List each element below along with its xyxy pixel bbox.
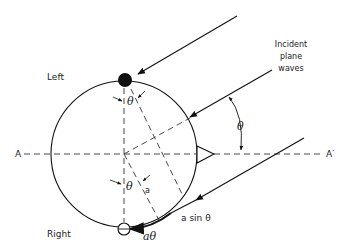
label-right: Right [47,229,71,239]
arc-a-theta [130,213,171,229]
label-axis-A-prime: A′ [326,149,334,159]
theta-top-arrow-left [113,97,122,101]
label-theta-center: θ [126,180,133,193]
theta-center-arrow-right [143,175,150,181]
label-a-theta: aθ [143,230,157,243]
label-theta-right: θ [237,120,244,133]
label-a-sin-theta: a sin θ [181,213,211,223]
theta-top-arrow-right [138,91,145,98]
label-radius-a: a [145,186,150,195]
label-waves: waves [278,64,303,73]
incident-ray-top [138,16,237,74]
label-axis-A: A [15,149,22,159]
perpendicular-dashed-top [131,89,183,196]
left-ear-dot [118,73,132,87]
wavefront-dashed [124,118,190,154]
diagram-canvas: Left Right Incident plane waves A A′ θ θ… [0,0,346,251]
label-plane: plane [280,52,302,61]
label-theta-top: θ [127,95,134,108]
label-incident: Incident [275,40,307,49]
incident-ray-bottom [196,138,304,200]
label-left: Left [47,72,64,82]
theta-center-arrow-left [110,180,121,184]
nose-triangle [197,146,214,163]
incident-ray-middle [190,70,272,117]
